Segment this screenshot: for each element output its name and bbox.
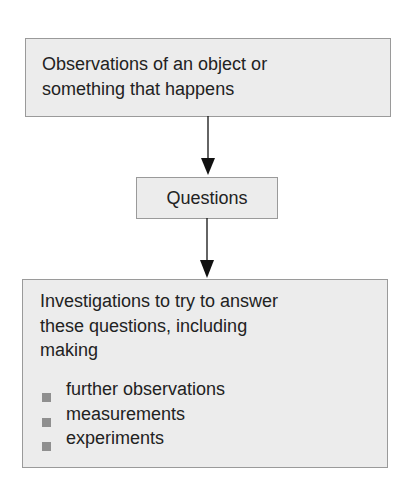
observations-line-1: Observations of an object or — [42, 52, 267, 77]
investigations-line-2: these questions, including — [40, 314, 278, 339]
questions-label: Questions — [137, 186, 277, 211]
bullet-square-icon — [42, 393, 51, 402]
investigations-box: Investigations to try to answer these qu… — [22, 279, 388, 468]
investigations-line-1: Investigations to try to answer — [40, 289, 278, 314]
bullet-square-icon — [42, 418, 51, 427]
bullet-item: further observations — [66, 377, 225, 402]
arrow-down-icon — [198, 218, 216, 280]
investigations-line-3: making — [40, 338, 278, 363]
observations-line-2: something that happens — [42, 77, 267, 102]
observations-box: Observations of an object or something t… — [25, 38, 391, 117]
bullet-item: measurements — [66, 402, 185, 427]
bullet-square-icon — [42, 442, 51, 451]
arrow-down-icon — [199, 116, 217, 178]
questions-box: Questions — [136, 177, 278, 219]
bullet-item: experiments — [66, 426, 164, 451]
